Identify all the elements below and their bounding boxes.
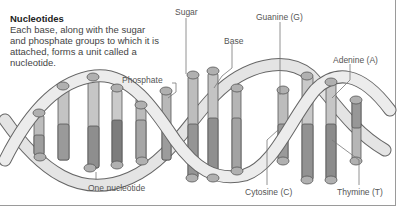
label-adenine: Adenine (A) [333,55,378,65]
label-one-nucleotide: One nucleotide [88,183,145,193]
label-phosphate: Phosphate [122,75,163,85]
intro-title: Nucleotides [10,13,160,24]
label-thymine: Thymine (T) [337,187,383,197]
nucleotides-intro: Nucleotides Each base, along with the su… [10,13,160,68]
label-sugar: Sugar [175,7,198,17]
label-base: Base [224,36,243,46]
label-guanine: Guanine (G) [256,12,303,22]
intro-body: Each base, along with the sugar and phos… [10,24,160,68]
label-cytosine: Cytosine (C) [245,187,292,197]
